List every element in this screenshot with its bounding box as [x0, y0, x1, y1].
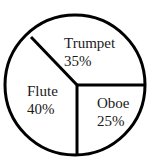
slice-value-flute: 40% — [27, 101, 55, 117]
slice-label-oboe: Oboe — [97, 95, 130, 111]
slice-value-oboe: 25% — [97, 113, 125, 129]
slice-label-trumpet: Trumpet — [64, 35, 116, 51]
pie-chart: Trumpet 35% Oboe 25% Flute 40% — [0, 0, 155, 168]
slice-value-trumpet: 35% — [64, 53, 92, 69]
slice-label-flute: Flute — [27, 83, 58, 99]
